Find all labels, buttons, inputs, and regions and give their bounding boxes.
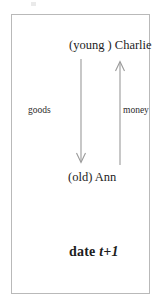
period-panel: (young ) Charlie goods money (old) Ann d… [11,14,150,294]
flow-label-money: money [123,106,149,116]
date-caption-prefix: date [69,244,99,259]
flow-label-goods: goods [28,106,51,116]
date-caption: date t+1 [69,245,119,259]
date-caption-math: t+1 [99,244,118,259]
agent-label-young-charlie: (young ) Charlie [69,39,152,52]
agent-label-old-ann: (old) Ann [68,171,116,184]
goods-flow-arrow-down [70,57,94,167]
scan-artifact-speck [31,2,36,6]
